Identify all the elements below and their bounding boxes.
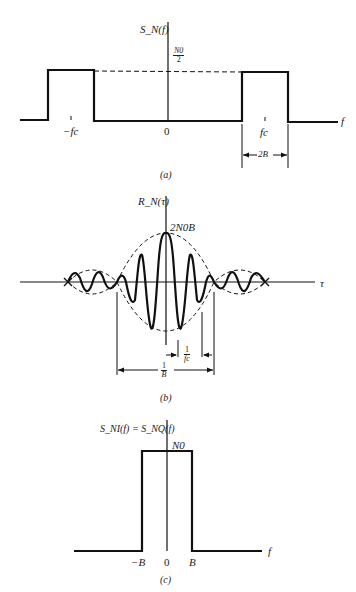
dim-label-1-over-B: 1 B <box>161 362 167 380</box>
panel-b-y-label: R_N(τ) <box>138 196 169 207</box>
panel-a-x-label: f <box>341 116 344 127</box>
tick-label-zero-a: 0 <box>164 126 170 137</box>
tick-label-B: B <box>189 557 196 568</box>
level-denominator: 2 <box>177 55 181 64</box>
panel-c-spectrum <box>74 451 262 551</box>
panel-c-x-label: f <box>268 546 271 557</box>
caption-a: (a) <box>160 169 172 180</box>
panel-b-x-label: τ <box>320 278 324 289</box>
peak-label: 2N0B <box>170 222 195 233</box>
panel-b-plot <box>20 196 315 375</box>
fc-denominator: fc <box>184 354 190 363</box>
width-label-2B: 2B <box>258 150 268 159</box>
tick-label-neg-B: −B <box>131 557 145 568</box>
panel-a-spectrum <box>20 70 338 122</box>
tick-label-zero-c: 0 <box>164 557 170 568</box>
dim-label-1-over-fc: 1 fc <box>184 346 190 364</box>
caption-b: (b) <box>160 392 172 403</box>
panel-c-level-label: N0 <box>172 440 185 451</box>
panel-c-y-label: S_NI(f) = S_NQ(f) <box>100 424 175 434</box>
caption-c: (c) <box>160 574 171 585</box>
B-denominator: B <box>162 370 167 379</box>
panel-a-plot <box>20 22 338 168</box>
tick-label-neg-fc: −fc <box>63 126 78 137</box>
panel-a-level-dashed <box>94 71 242 72</box>
panel-a-level-label: N0 2 <box>173 47 184 65</box>
panel-a-y-label: S_N(f) <box>140 24 169 35</box>
tick-label-fc: fc <box>260 127 268 138</box>
panel-c-plot <box>74 420 262 551</box>
figure-canvas <box>0 0 356 592</box>
